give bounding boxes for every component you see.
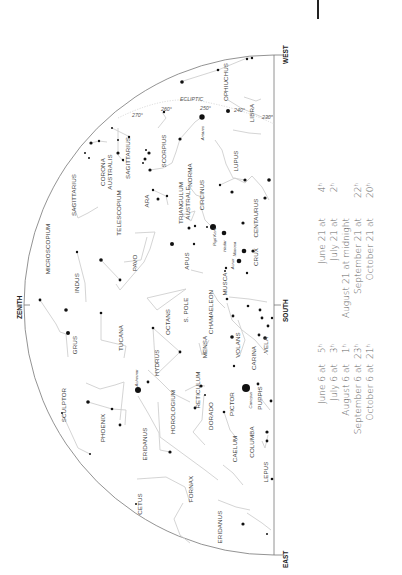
ecliptic-degree: 270° (131, 112, 143, 118)
visibility-time: 21h (365, 344, 375, 359)
constellation-label: CRUX (252, 248, 259, 266)
ecliptic-degree: 250° (199, 105, 211, 111)
star-name-label: Achernar (134, 369, 139, 388)
constellation-label: TUCANA (117, 324, 124, 351)
visibility-time: 3h (329, 344, 339, 353)
constellation-label: CAELUM (231, 436, 238, 462)
ecliptic-degree: 260° (160, 106, 172, 112)
constellation-label: LUPUS (232, 150, 239, 171)
label-south: SOUTH (282, 299, 289, 322)
constellation-label: APUS (183, 252, 190, 269)
constellation-label: FORNAX (187, 476, 194, 502)
constellation-label: VELA (262, 336, 269, 353)
constellation-lines (40, 58, 274, 543)
visibility-date: September 21 at (353, 218, 363, 294)
constellation-label: GRUS (71, 336, 78, 354)
southern-sky-star-chart: WEST EAST SOUTH ZENITH ECLIPTIC 270° 260… (0, 0, 402, 575)
visibility-date: July 6 at (329, 364, 339, 401)
label-zenith: ZENITH (16, 295, 23, 319)
constellation-label: S. POLE (182, 298, 189, 323)
constellation-label: RETICULUM (194, 372, 201, 409)
constellation-label: ERIDANUS (216, 511, 223, 544)
ecliptic-degree: 230° (261, 114, 273, 120)
ecliptic-degree: 240° (233, 107, 245, 113)
visibility-date: June 21 at (317, 218, 327, 264)
constellation-label: AUSTRALE (184, 186, 191, 219)
constellation-label: SCULPTOR (60, 387, 67, 422)
visibility-date: August 6 at (341, 364, 351, 416)
constellation-label: MENSA (201, 335, 208, 358)
visibility-date: September 6 at (353, 364, 363, 435)
constellation-label: CIRCINUS (198, 180, 205, 211)
visibility-time: 1h (341, 344, 351, 353)
visibility-time: 5h (317, 344, 327, 353)
constellation-label: PHOENIX (99, 414, 106, 443)
constellation-label: CENTAURUS (252, 199, 259, 238)
constellation-label: TRIANGULUM (177, 182, 184, 224)
ecliptic-title: ECLIPTIC (180, 96, 204, 102)
visibility-date: August 21 at midnight (341, 218, 351, 319)
constellation-label: INDUS (73, 273, 80, 293)
constellation-label: AUSTRALIS (106, 154, 113, 189)
label-east: EAST (282, 551, 289, 568)
visibility-time: 20h (365, 183, 375, 198)
horizon-frame (24, 55, 283, 555)
star-name-label: Canopus (248, 391, 253, 409)
constellation-label: MICROSCOPIUM (44, 224, 51, 275)
visibility-date: June 6 at (317, 364, 327, 405)
constellation-label: NORMA (186, 162, 193, 186)
visibility-times-block-b: June 6 at5hJuly 6 at3hAugust 6 at1hSepte… (317, 344, 375, 434)
visibility-times-block-a: June 21 at4hJuly 21 at2hAugust 21 at mid… (317, 183, 375, 318)
constellation-label: SAGITTARIUS (70, 174, 77, 216)
constellation-label: DORADO (207, 402, 214, 430)
constellation-label: ERIDANUS (141, 428, 148, 461)
constellation-label: OPHIUCHUS (222, 63, 229, 101)
constellation-label: MUSCA (221, 272, 228, 296)
visibility-date: July 21 at (329, 218, 339, 261)
star-name-label: Mimosa (232, 241, 237, 256)
constellation-label: HOROLOGIUM (169, 390, 176, 434)
constellation-label: CETUS (136, 493, 143, 514)
constellation-label: HYDRUS (153, 350, 160, 377)
constellation-label: CARINA (250, 345, 257, 370)
visibility-date: October 21 at (365, 218, 375, 281)
star-name-label: Antares (200, 125, 205, 141)
visibility-time: 23h (353, 344, 363, 359)
constellation-label: SAGITTARIUS (124, 137, 131, 179)
constellation-label: CORONA (99, 157, 106, 186)
visibility-date: October 6 at (365, 364, 375, 421)
label-west: WEST (282, 45, 289, 64)
constellation-label: LIBRA (248, 103, 255, 122)
constellation-label: SCORPIUS (160, 134, 167, 167)
constellation-label: PICTOR (228, 392, 235, 416)
constellation-label: CHAMAELEON (207, 290, 214, 334)
constellation-label: VOLANS (234, 332, 241, 358)
constellation-label: ARA (143, 194, 150, 208)
constellation-label: PAVO (131, 255, 138, 272)
constellation-labels: OPHIUCHUSLIBRASCORPIUSSAGITTARIUSCORONAA… (44, 63, 269, 543)
constellation-label: LEPUS (262, 462, 269, 483)
star-name-label: Hadar (222, 240, 227, 252)
visibility-time: 2h (329, 183, 339, 192)
visibility-time: 22h (353, 183, 363, 198)
visibility-time: 4h (317, 183, 327, 192)
constellation-label: TELESCOPIUM (115, 190, 122, 235)
constellation-label: COLUMBA (248, 426, 255, 458)
constellation-label: PUPPIS (256, 386, 263, 409)
constellation-label: OCTANS (164, 309, 171, 335)
star-name-label: Rigil Kent (212, 227, 217, 246)
star-name-label: Acrux (230, 258, 235, 271)
